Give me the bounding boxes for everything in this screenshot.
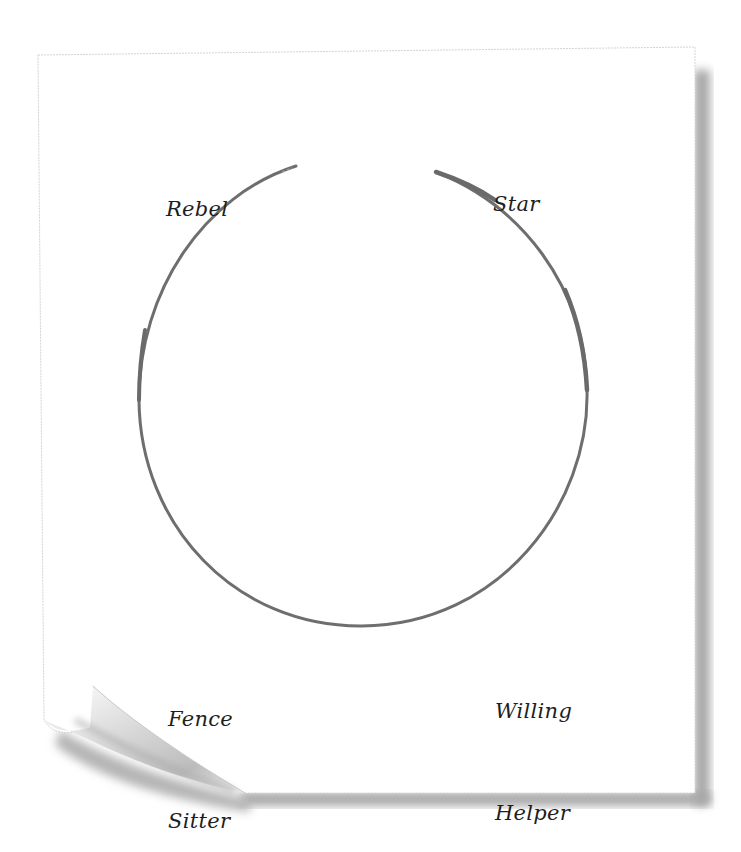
paper-sheet: [0, 0, 741, 852]
label-willing-helper: Willing Helper: [495, 626, 572, 852]
label-fence-sitter-line-1: Fence: [168, 702, 233, 736]
label-fence-sitter-line-2: Sitter: [168, 804, 233, 838]
diagram-canvas: Rebel Star Fence Sitter Willing Helper: [0, 0, 741, 852]
label-rebel: Rebel: [166, 124, 228, 294]
paper-body: [38, 47, 695, 793]
label-rebel-line-1: Rebel: [166, 192, 228, 226]
label-willing-helper-line-1: Willing: [495, 694, 572, 728]
label-star-line-1: Star: [493, 187, 540, 221]
label-star: Star: [493, 119, 540, 289]
label-willing-helper-line-2: Helper: [495, 796, 572, 830]
label-fence-sitter: Fence Sitter: [168, 634, 233, 852]
